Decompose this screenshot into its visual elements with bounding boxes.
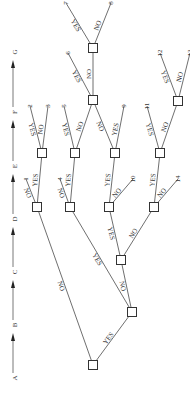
nodes [33,44,183,370]
edge-label-yes: YES [70,69,83,85]
stage-label-g: G [11,49,19,54]
edge-label-no: NO [36,124,45,135]
terminal-outcome-4: 4 [56,177,64,181]
edge-label-yes: YES [148,173,157,187]
edge-label-no: NO [111,187,124,200]
terminal-outcome-14: 14 [174,175,182,183]
edge-label-no: NO [56,280,67,292]
arrow-up-icon [11,227,15,235]
decision-node-e [156,149,165,158]
edge-label-yes: YES [64,173,73,187]
edge-label-no: NO [160,121,171,133]
arrow-up-icon [11,280,15,288]
terminal-outcome-8: 8 [107,1,115,5]
edge-label-yes: YES [106,226,117,241]
edge-label-no: NO [56,187,67,199]
edge-label-no: NO [94,120,105,132]
decision-node-d [66,203,75,212]
edge-label-yes: YES [60,122,71,137]
arrow-up-icon [11,60,15,68]
terminal-outcome-9: 9 [120,104,128,108]
decision-node-f [89,96,98,105]
terminal-outcome-6: 6 [64,51,72,55]
decision-node-d [33,203,42,212]
terminal-outcome-13: 13 [186,49,190,57]
decision-node-e [71,149,80,158]
edge-label-yes: YES [159,69,171,84]
edge-label-yes: YES [144,122,155,137]
decision-tree-diagram: ABCDEFG YESNOYESNOYESNONOYESNOYESYESNOYE… [0,0,190,404]
edge-label-no: NO [75,120,86,132]
decision-node-d [150,203,159,212]
stage-label-e: E [11,164,19,168]
edge-label-no: NO [85,69,93,79]
arrow-up-icon [11,333,15,341]
stage-label-a: A [11,375,19,380]
edge-labels: YESNOYESNOYESNONOYESNOYESYESNOYESNOYESNO… [22,18,185,346]
terminal-outcome-11: 11 [143,102,151,109]
stage-label-b: B [11,322,19,327]
terminal-outcome-1: 1 [22,177,30,181]
terminal-outcome-5: 5 [60,104,68,108]
edge-label-no: NO [156,187,169,200]
edge-label-yes: YES [90,252,104,268]
edge-label-yes: YES [69,18,83,34]
decision-node-e [38,149,47,158]
stage-label-d: D [11,216,19,221]
edge-label-no: NO [175,71,185,83]
terminal-outcome-2: 2 [26,104,34,108]
edge-label-yes: YES [103,173,112,187]
stage-label-c: C [11,269,19,274]
edge-label-no: NO [127,227,139,240]
edge-label-no: NO [92,19,103,31]
stage-label-f: F [11,110,19,114]
edge-label-yes: YES [101,331,115,346]
arrow-up-icon [11,120,15,128]
terminal-outcome-12: 12 [156,49,164,57]
edge-label-yes: YES [31,173,40,187]
decision-node-d [105,203,114,212]
decision-node-a [89,361,98,370]
edge-label-yes: YES [110,122,120,137]
terminal-outcome-10: 10 [129,175,137,183]
decision-node-b [128,308,137,317]
terminal-outcome-3: 3 [44,104,52,108]
stage-axis: ABCDEFG [11,49,19,380]
decision-node-f [174,97,183,106]
terminal-outcome-7: 7 [62,1,70,5]
arrow-up-icon [11,174,15,182]
edge-label-no: NO [22,187,33,199]
decision-node-e [111,149,120,158]
decision-node-c [117,256,126,265]
decision-node-g [89,44,98,53]
